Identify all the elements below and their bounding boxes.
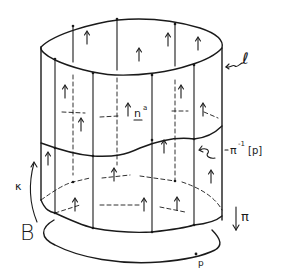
svg-text:[p]: [p] (248, 145, 262, 156)
projection-arrow: π (233, 207, 249, 230)
svg-text:n: n (134, 107, 141, 120)
kappa-curve: κ (15, 162, 37, 222)
bottom-back-dashed (41, 175, 222, 213)
svg-text:a: a (143, 104, 147, 112)
arrow-up-icon (73, 198, 78, 211)
normal-vectors (46, 31, 214, 211)
cylinder-sides (41, 47, 222, 220)
arrow-up-icon (137, 48, 142, 61)
svg-text:p: p (198, 258, 204, 268)
arrow-up-icon (126, 103, 131, 116)
bottom-front-edge (41, 180, 222, 234)
svg-text:ℓ: ℓ (241, 49, 249, 68)
svg-text:B: B (20, 220, 34, 245)
normal-vector-label: n a (134, 104, 147, 120)
svg-text:π: π (241, 209, 249, 224)
arrow-up-icon (85, 31, 90, 44)
arrow-up-icon (79, 118, 84, 131)
svg-text:-1: -1 (238, 140, 245, 148)
arrow-up-icon (63, 85, 68, 98)
arrow-up-icon (142, 198, 147, 211)
arrow-up-icon (196, 37, 201, 50)
arrow-up-icon (209, 170, 214, 183)
base-label: B (20, 220, 34, 245)
arrow-up-icon (162, 140, 167, 153)
arrow-up-icon (112, 168, 117, 181)
fibre-bundle-diagram: n a ℓ π -1 [p] κ B π p (0, 0, 283, 277)
base-curve (44, 220, 220, 263)
arrow-up-icon (166, 33, 171, 46)
arrow-up-icon (175, 197, 180, 210)
section-curve (41, 126, 222, 157)
top-rim (41, 19, 222, 75)
point-p-label: p (198, 258, 204, 268)
arrow-up-icon (46, 152, 51, 165)
arrow-up-icon (179, 85, 184, 98)
total-space-label: ℓ (226, 49, 249, 69)
svg-text:κ: κ (15, 180, 22, 193)
svg-text:π: π (230, 144, 237, 157)
point-p-dot (195, 253, 198, 256)
arrow-up-icon (201, 103, 206, 116)
fibre-label: π -1 [p] (199, 140, 262, 158)
